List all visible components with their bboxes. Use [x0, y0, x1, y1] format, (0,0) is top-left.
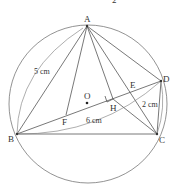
- label-A: A: [84, 14, 91, 24]
- point-C: [156, 133, 158, 135]
- label-B: B: [8, 134, 14, 144]
- top-fragment-text: 2: [112, 0, 117, 5]
- dimension-label-5cm: 5 cm: [34, 67, 51, 76]
- geometry-diagram: 2 A B C D E F H O 5 cm 6 cm 2 cm: [0, 0, 179, 188]
- center-O-dot: [86, 102, 89, 105]
- label-H: H: [110, 103, 117, 113]
- point-B: [16, 133, 18, 135]
- point-A: [86, 25, 88, 27]
- segment-AF: [66, 26, 87, 115]
- point-D: [160, 80, 162, 82]
- label-C: C: [159, 135, 165, 145]
- label-D: D: [163, 74, 170, 84]
- dimension-label-2cm: 2 cm: [142, 100, 159, 109]
- segment-AH: [87, 26, 113, 99]
- label-F: F: [62, 117, 67, 127]
- segment-AD: [87, 26, 161, 81]
- label-E: E: [130, 80, 136, 90]
- dimension-label-6cm: 6 cm: [86, 116, 103, 125]
- label-O: O: [84, 91, 91, 101]
- segment-AB: [17, 26, 87, 134]
